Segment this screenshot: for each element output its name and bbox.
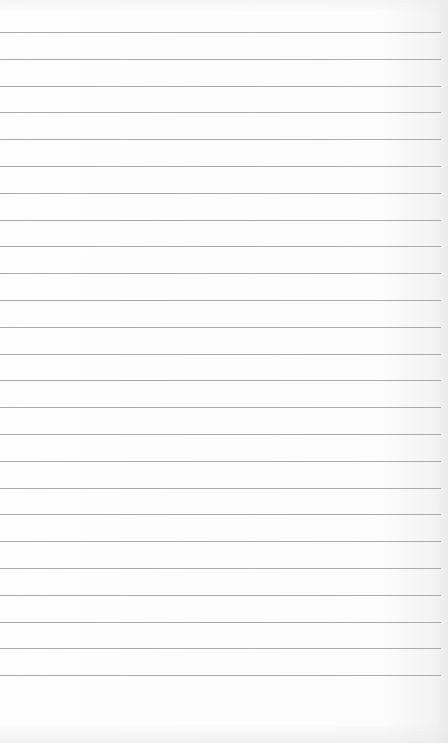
ruled-line xyxy=(0,166,441,167)
ruled-line xyxy=(0,354,441,355)
ruled-line xyxy=(0,112,441,113)
ruled-line xyxy=(0,488,441,489)
ruled-line xyxy=(0,568,441,569)
ruled-line xyxy=(0,648,441,649)
ruled-line xyxy=(0,220,441,221)
ruled-line xyxy=(0,407,441,408)
ruled-line xyxy=(0,300,441,301)
ruled-line xyxy=(0,461,441,462)
ruled-line xyxy=(0,246,441,247)
ruled-line xyxy=(0,327,441,328)
ruled-line xyxy=(0,622,441,623)
ruled-line xyxy=(0,675,441,676)
ruled-line xyxy=(0,541,441,542)
ruled-line xyxy=(0,595,441,596)
ruled-line xyxy=(0,86,441,87)
ruled-line xyxy=(0,193,441,194)
lined-paper xyxy=(0,0,448,743)
ruled-line xyxy=(0,59,441,60)
ruled-line xyxy=(0,434,441,435)
ruled-line xyxy=(0,273,441,274)
ruled-line xyxy=(0,139,441,140)
ruled-line xyxy=(0,32,441,33)
ruled-line xyxy=(0,380,441,381)
ruled-line xyxy=(0,514,441,515)
